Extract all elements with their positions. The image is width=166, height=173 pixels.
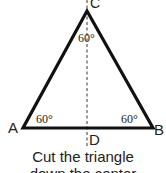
vertex-label-b: B	[154, 121, 164, 138]
angle-label-c: 60°	[78, 31, 95, 45]
vertex-label-c: C	[90, 0, 100, 11]
equilateral-triangle	[23, 11, 153, 128]
angle-label-b: 60°	[121, 112, 138, 126]
caption-line-2: down the center	[0, 165, 166, 173]
vertex-label-a: A	[8, 119, 18, 136]
angle-label-a: 60°	[36, 112, 53, 126]
vertex-label-d: D	[89, 131, 100, 148]
caption-line-1: Cut the triangle	[0, 148, 166, 165]
